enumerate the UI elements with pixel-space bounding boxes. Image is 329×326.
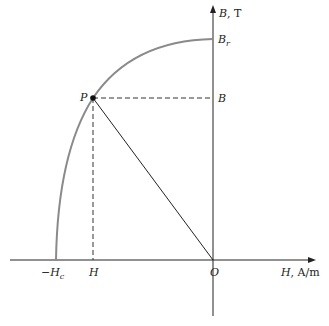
point-b-label: B xyxy=(217,92,226,105)
point-p-label: P xyxy=(79,91,88,104)
point-h-label: H xyxy=(88,266,99,279)
demagnetization-curve xyxy=(56,39,213,260)
coercivity-label: −Hc xyxy=(41,266,65,281)
remanence-label: Br xyxy=(217,33,231,48)
h-axis-arrow-icon xyxy=(308,257,316,263)
origin-label: O xyxy=(210,266,219,279)
load-line xyxy=(93,98,213,260)
h-axis-label: H, A/m xyxy=(280,266,320,279)
bh-demagnetization-diagram: B, T Br B P O H, A/m H −Hc xyxy=(0,0,329,326)
b-axis-arrow-icon xyxy=(210,5,216,13)
operating-point-p xyxy=(90,95,96,101)
b-axis-label: B, T xyxy=(218,7,242,20)
